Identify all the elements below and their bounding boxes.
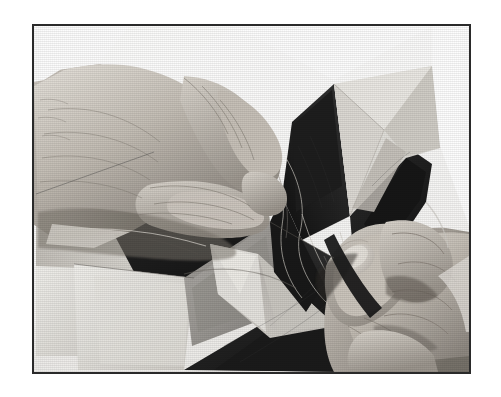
- photo-frame: [32, 24, 471, 374]
- figure-alt-text: Black and white photograph of two hands …: [0, 0, 1, 1]
- photograph-artwork: [34, 26, 469, 372]
- page-root: Black and white photograph of two hands …: [0, 0, 501, 397]
- photograph: [34, 26, 469, 372]
- figure-caption: [0, 0, 1, 1]
